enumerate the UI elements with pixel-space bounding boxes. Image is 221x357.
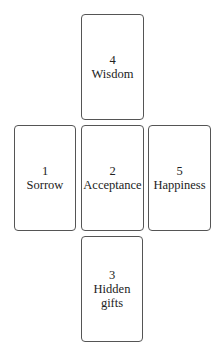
card-number: 1	[42, 164, 48, 178]
card-label: Wisdom	[92, 67, 134, 81]
card-label: Acceptance	[83, 178, 141, 192]
card-number: 2	[109, 164, 115, 178]
card-label: Hidden gifts	[90, 282, 134, 310]
card-2-acceptance: 2 Acceptance	[81, 125, 144, 231]
card-label: Sorrow	[27, 178, 64, 192]
card-number: 5	[176, 164, 182, 178]
card-number: 3	[109, 268, 115, 282]
card-number: 4	[109, 53, 115, 67]
card-label: Happiness	[153, 178, 205, 192]
card-5-happiness: 5 Happiness	[148, 125, 211, 231]
card-1-sorrow: 1 Sorrow	[14, 125, 76, 231]
card-4-wisdom: 4 Wisdom	[81, 14, 144, 120]
card-3-hidden-gifts: 3 Hidden gifts	[81, 236, 143, 342]
